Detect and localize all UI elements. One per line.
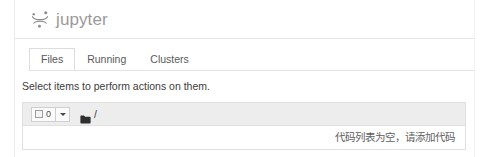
file-list-body: 代码列表为空，请添加代码 <box>23 126 465 149</box>
breadcrumb-root-path: / <box>94 109 97 120</box>
jupyter-logo-icon <box>29 8 51 30</box>
file-list-panel: 0 / 代码列表为空，请添加代码 <box>22 102 466 150</box>
file-list-toolbar: 0 / <box>23 103 465 126</box>
folder-icon <box>80 110 91 119</box>
header-divider <box>15 38 474 39</box>
selection-button-group: 0 <box>31 107 70 122</box>
jupyter-wordmark: jupyter <box>56 11 108 28</box>
selection-dropdown-button[interactable] <box>55 107 70 122</box>
page-header: jupyter <box>15 0 474 38</box>
tab-clusters[interactable]: Clusters <box>138 48 201 70</box>
tab-bar-underline <box>29 70 474 71</box>
tab-files[interactable]: Files <box>29 48 75 70</box>
breadcrumb[interactable]: / <box>80 109 97 120</box>
tab-list: Files Running Clusters <box>29 48 201 70</box>
select-all-checkbox-button[interactable]: 0 <box>31 107 55 122</box>
tab-running[interactable]: Running <box>75 48 138 70</box>
page-right-border <box>474 0 475 157</box>
jupyter-brand[interactable]: jupyter <box>29 8 108 30</box>
tab-files-label: Files <box>41 54 63 65</box>
tab-bar: Files Running Clusters <box>29 48 474 71</box>
tab-running-label: Running <box>87 54 126 65</box>
jupyter-file-browser-page: jupyter Files Running Clusters Select it… <box>0 0 489 157</box>
caret-down-icon <box>60 113 66 116</box>
empty-list-message: 代码列表为空，请添加代码 <box>335 132 455 143</box>
checkbox-unchecked-icon <box>35 110 43 118</box>
tab-clusters-label: Clusters <box>150 54 189 65</box>
selected-count: 0 <box>46 110 51 119</box>
instruction-text: Select items to perform actions on them. <box>22 81 210 92</box>
